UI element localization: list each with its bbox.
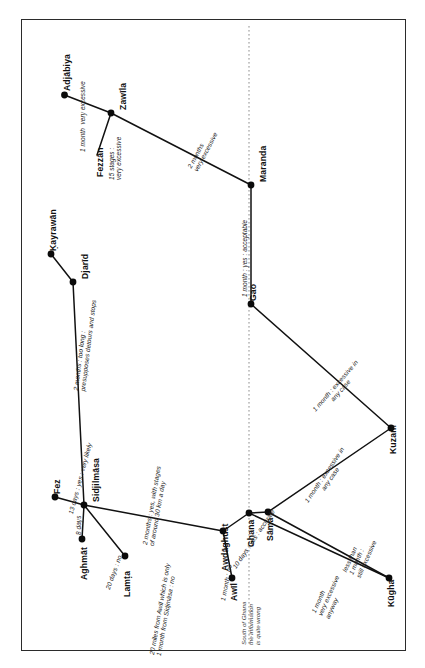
annotation-fezzan-zawila-line2: very excessive bbox=[115, 137, 122, 180]
node-djarid[interactable] bbox=[70, 279, 77, 286]
note-south-of-ghana: South of Ghana the information is quite … bbox=[241, 602, 262, 645]
city-label-lamta: Lamṭa bbox=[123, 571, 133, 597]
city-label-fez: Fez bbox=[53, 479, 63, 494]
node-zawila[interactable] bbox=[108, 110, 115, 117]
edge-adjabiya-zawila bbox=[65, 95, 112, 113]
city-label-aghmat: Aghmāt bbox=[80, 547, 90, 580]
city-label-maranda: Maranda bbox=[259, 146, 269, 182]
note-south-of-ghana-line3: is quite wrong bbox=[255, 602, 262, 645]
annotation-fezzan-zawila: 15 stages : very excessive bbox=[108, 137, 123, 180]
annotation-sidjilmasa-aghmat-line1: 8 days bbox=[75, 516, 82, 535]
city-label-djarid: Djarīd bbox=[81, 254, 91, 279]
annotation-adjabiya-zawila-line2: very excessive bbox=[79, 81, 86, 124]
annotation-sidjilmasa-aghmat: 8 days bbox=[75, 516, 82, 535]
annotation-fezzan-zawila-line1: 15 stages : bbox=[108, 137, 115, 180]
node-adjabiya[interactable] bbox=[61, 92, 68, 99]
city-label-sidjilmasa: Sidjilmāsa bbox=[92, 458, 102, 502]
node-gao[interactable] bbox=[248, 301, 255, 308]
city-label-kuzam: Kuzam bbox=[389, 425, 399, 454]
node-fez[interactable] bbox=[52, 494, 59, 501]
annotation-adjabiya-zawila-line1: 1 month bbox=[79, 128, 86, 152]
diagram-canvas: Adjābiya Zawīla Fezzān Maranda Ḳayrawān … bbox=[0, 0, 425, 668]
city-label-adjabiya: Adjābiya bbox=[63, 54, 73, 91]
city-label-gao: Gao bbox=[249, 284, 259, 301]
edge-sidjilmasa-lamta bbox=[84, 505, 125, 556]
city-label-fezzan: Fezzān bbox=[96, 147, 106, 177]
city-label-kugha: Kūgha bbox=[387, 580, 397, 607]
city-label-awil: Awīl bbox=[230, 583, 240, 601]
edge-zawila-maranda bbox=[111, 113, 251, 185]
annotation-maranda-gao: 1 month : yes : acceptable bbox=[241, 220, 248, 297]
node-sidjilmasa[interactable] bbox=[81, 502, 88, 509]
annotation-adjabiya-zawila: 1 month very excessive bbox=[79, 81, 86, 152]
edge-kayrawan-djarid bbox=[51, 254, 73, 282]
node-maranda[interactable] bbox=[248, 182, 255, 189]
edge-sidjilmasa-aghmat bbox=[82, 505, 84, 539]
node-kayrawan[interactable] bbox=[48, 251, 55, 258]
annotation-maranda-gao-line1: 1 month : yes : acceptable bbox=[241, 220, 248, 297]
node-aghmat[interactable] bbox=[79, 536, 86, 543]
city-label-zawila: Zawīla bbox=[119, 83, 129, 110]
city-label-kayrawan: Ḳayrawān bbox=[49, 209, 59, 251]
node-ghana[interactable] bbox=[246, 510, 253, 517]
